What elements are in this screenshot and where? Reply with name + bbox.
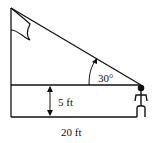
angle-arc bbox=[89, 58, 97, 85]
angle-label: 30° bbox=[98, 72, 113, 84]
height-arrow bbox=[47, 86, 53, 116]
flag-icon bbox=[11, 8, 30, 40]
trig-diagram: 30° 5 ft 20 ft bbox=[0, 0, 167, 143]
person-icon bbox=[135, 85, 147, 117]
distance-label: 20 ft bbox=[61, 126, 81, 138]
line-of-sight bbox=[11, 8, 141, 85]
height-label: 5 ft bbox=[58, 96, 73, 108]
